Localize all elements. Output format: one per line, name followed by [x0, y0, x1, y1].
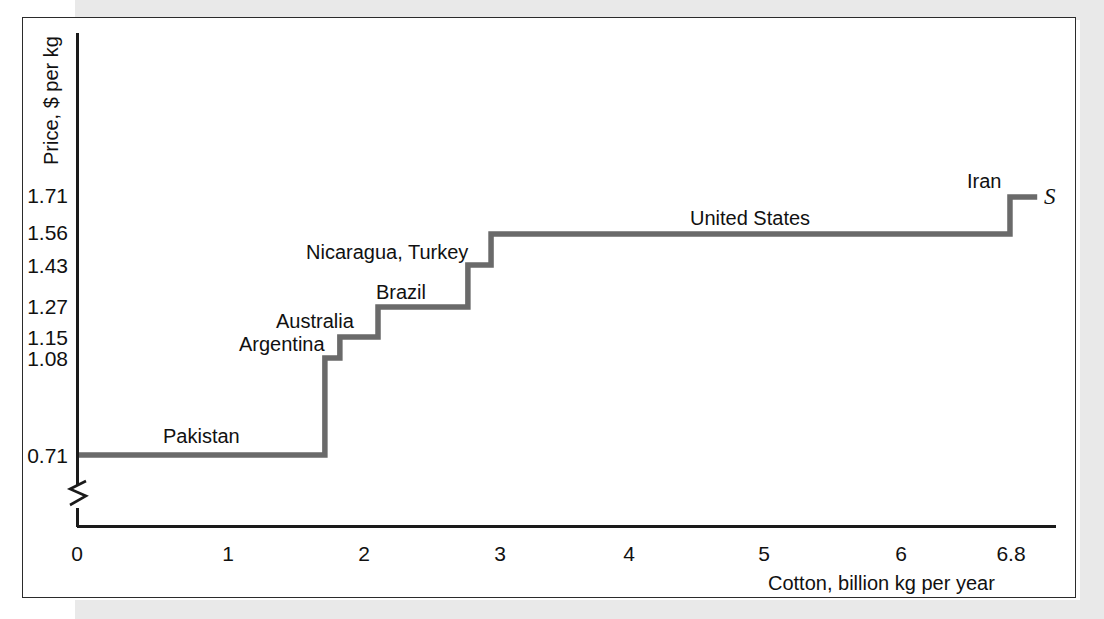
y-axis-title: Price, $ per kg [40, 36, 63, 165]
y-tick-label-1-08: 1.08 [0, 348, 68, 369]
x-axis-title: Cotton, billion kg per year [768, 572, 995, 595]
supply-curve-plot [0, 0, 1104, 619]
step-label-brazil: Brazil [376, 281, 426, 304]
y-tick-label-1-71: 1.71 [0, 185, 68, 206]
step-label-iran: Iran [967, 170, 1001, 193]
supply-curve-letter: S [1044, 184, 1056, 210]
y-tick-label-1-43: 1.43 [0, 255, 68, 276]
y-tick-label-0-71: 0.71 [0, 445, 68, 466]
step-label-pakistan: Pakistan [163, 425, 240, 448]
x-tick-label-6: 6 [881, 543, 921, 564]
step-label-argentina: Argentina [239, 333, 325, 356]
y-tick-label-1-27: 1.27 [0, 296, 68, 317]
x-tick-label-2: 2 [344, 543, 384, 564]
x-tick-label-4: 4 [609, 543, 649, 564]
x-tick-label-3: 3 [480, 543, 520, 564]
y-axis-break-icon [70, 481, 86, 505]
y-tick-label-1-56: 1.56 [0, 222, 68, 243]
x-tick-label-6-8: 6.8 [981, 543, 1041, 564]
x-tick-label-5: 5 [744, 543, 784, 564]
figure-page: Price, $ per kg 1.71 1.56 1.43 1.27 1.15… [0, 0, 1104, 619]
step-label-nicaragua-turkey: Nicaragua, Turkey [306, 241, 468, 264]
x-tick-label-0: 0 [57, 543, 97, 564]
supply-curve-line [79, 197, 1037, 455]
step-label-australia: Australia [276, 310, 354, 333]
x-tick-label-1: 1 [208, 543, 248, 564]
y-tick-label-1-15: 1.15 [0, 327, 68, 348]
step-label-united-states: United States [690, 207, 810, 230]
